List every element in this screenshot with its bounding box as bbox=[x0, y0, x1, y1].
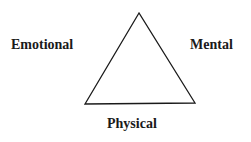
triangle bbox=[85, 13, 195, 104]
label-mental: Mental bbox=[190, 38, 233, 52]
triangle-diagram: Emotional Mental Physical bbox=[0, 0, 251, 142]
label-physical: Physical bbox=[107, 117, 157, 131]
label-emotional: Emotional bbox=[11, 38, 73, 52]
